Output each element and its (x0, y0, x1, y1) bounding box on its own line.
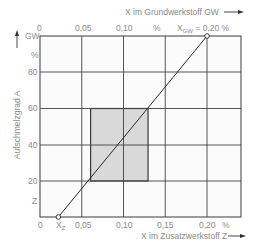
point-xz (56, 215, 61, 220)
bottom-tick-0: 0 (38, 220, 43, 230)
top-axis-label: X im Grundwerkstoff GW (125, 7, 219, 17)
bottom-tick-005: 0,05 (75, 220, 92, 230)
left-tick-80: 80 (28, 67, 38, 77)
top-tick-percent: % (153, 23, 161, 33)
left-axis-label: Aufschmelzgrad A (12, 90, 22, 159)
bottom-tick-015: 0,15 (157, 220, 174, 230)
bottom-tick-percent: % (222, 220, 230, 230)
left-tick-40: 40 (28, 140, 38, 150)
xgw-annotation: XGW = 0,20 % (177, 23, 230, 34)
xgw-sub: GW (183, 28, 194, 34)
left-tick-20: 20 (28, 176, 38, 186)
left-tick-percent: % (31, 50, 39, 60)
left-tick-gw: GW (25, 31, 40, 41)
point-xgw (205, 34, 210, 39)
bottom-axis-arrow (228, 234, 246, 238)
dilution-diagram: X im Grundwerkstoff GW 0 0,05 0,10 % XGW… (0, 0, 255, 249)
top-tick-005: 0,05 (75, 23, 92, 33)
bottom-tick-010: 0,10 (116, 220, 133, 230)
bottom-axis-label: X im Zusatzwerkstoff Z (141, 231, 227, 241)
left-axis-arrow (15, 30, 19, 48)
bottom-tick-020: 0,20 (199, 220, 216, 230)
xz-sub: Z (62, 225, 66, 231)
left-tick-60: 60 (28, 103, 38, 113)
xz-label: XZ (56, 220, 66, 231)
xgw-rest: = 0,20 % (193, 23, 230, 33)
top-tick-010: 0,10 (116, 23, 133, 33)
left-tick-z: Z (32, 196, 37, 206)
top-axis-arrow (224, 10, 244, 14)
